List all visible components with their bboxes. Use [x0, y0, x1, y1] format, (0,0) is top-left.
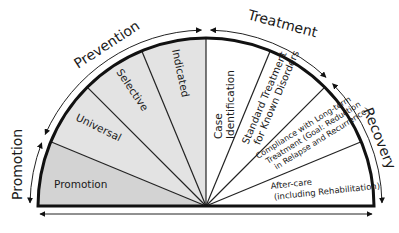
sector-label-promotion: Promotion [54, 178, 107, 190]
label-treatment: Treatment [245, 6, 319, 40]
intervention-spectrum-diagram: Promotion Prevention Treatment Recovery … [0, 0, 399, 233]
label-promotion: Promotion [9, 129, 25, 200]
